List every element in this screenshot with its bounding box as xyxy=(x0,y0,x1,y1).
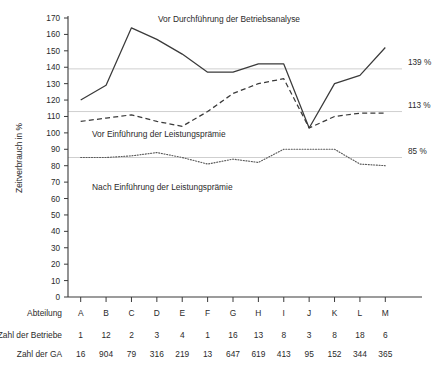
y-tick-label-90: 90 xyxy=(51,145,61,154)
y-tick-label-60: 60 xyxy=(51,195,61,204)
table-cell-r1-c9: 3 xyxy=(307,330,312,340)
table-cell-r2-c1: 904 xyxy=(99,349,113,359)
y-tick-label-0: 0 xyxy=(55,293,60,302)
table-cell-r2-c10: 152 xyxy=(328,349,342,359)
table-cell-r0-c11: L xyxy=(358,308,363,318)
table-cell-r0-c6: G xyxy=(230,308,237,318)
table-cell-r1-c7: 13 xyxy=(254,330,264,340)
y-tick-label-20: 20 xyxy=(51,260,61,269)
y-tick-label-170: 170 xyxy=(46,14,60,23)
table-cell-r1-c3: 3 xyxy=(155,330,160,340)
reference-label-113: 113 % xyxy=(408,101,431,110)
table-cell-r2-c8: 413 xyxy=(277,349,291,359)
table-cell-r2-c7: 619 xyxy=(251,349,265,359)
table-cell-r2-c0: 16 xyxy=(76,349,86,359)
table-cell-r2-c12: 365 xyxy=(378,349,392,359)
y-tick-label-150: 150 xyxy=(46,47,60,56)
table-row-header-2: Zahl der GA xyxy=(17,349,63,359)
table-cell-r0-c2: C xyxy=(128,308,134,318)
y-tick-label-100: 100 xyxy=(46,129,60,138)
table-cell-r1-c1: 12 xyxy=(101,330,111,340)
line-chart-canvas: 139 %113 %85 %01020304050607080901001101… xyxy=(0,0,438,366)
table-row-header-0: Abteilung xyxy=(27,308,62,318)
y-tick-label-140: 140 xyxy=(46,63,60,72)
series-line-solid xyxy=(81,28,386,128)
table-cell-r0-c12: M xyxy=(382,308,389,318)
table-cell-r2-c6: 647 xyxy=(226,349,240,359)
y-tick-label-10: 10 xyxy=(51,277,61,286)
table-cell-r2-c4: 219 xyxy=(175,349,189,359)
series-annotation-2: Vor Einführung der Leistungsprämie xyxy=(92,129,226,139)
y-tick-label-80: 80 xyxy=(51,162,61,171)
reference-label-139: 139 % xyxy=(408,58,431,67)
table-cell-r1-c2: 2 xyxy=(129,330,134,340)
y-tick-label-30: 30 xyxy=(51,244,61,253)
y-tick-label-160: 160 xyxy=(46,30,60,39)
y-tick-label-110: 110 xyxy=(47,112,60,121)
y-tick-label-40: 40 xyxy=(51,227,61,236)
series-line-dashed xyxy=(81,79,386,128)
series-annotation-1: Vor Durchführung der Betriebsanalyse xyxy=(158,14,300,24)
table-cell-r0-c0: A xyxy=(78,308,84,318)
table-cell-r0-c5: F xyxy=(205,308,210,318)
table-cell-r2-c5: 13 xyxy=(203,349,213,359)
table-cell-r2-c9: 95 xyxy=(304,349,314,359)
table-cell-r0-c9: J xyxy=(307,308,311,318)
table-cell-r1-c11: 18 xyxy=(355,330,365,340)
table-cell-r0-c8: I xyxy=(283,308,285,318)
y-axis-title: Zeitverbrauch in % xyxy=(14,123,24,193)
table-cell-r1-c4: 4 xyxy=(180,330,185,340)
table-cell-r1-c12: 6 xyxy=(383,330,388,340)
table-cell-r1-c0: 1 xyxy=(78,330,83,340)
y-tick-label-120: 120 xyxy=(46,96,60,105)
y-tick-label-70: 70 xyxy=(51,178,61,187)
table-row-header-1: Zahl der Betriebe xyxy=(0,330,62,340)
table-cell-r2-c11: 344 xyxy=(353,349,367,359)
table-cell-r0-c7: H xyxy=(255,308,261,318)
table-cell-r2-c3: 316 xyxy=(150,349,164,359)
reference-label-85: 85 % xyxy=(408,147,427,156)
table-cell-r0-c4: E xyxy=(179,308,185,318)
table-cell-r0-c1: B xyxy=(103,308,109,318)
table-cell-r1-c6: 16 xyxy=(228,330,238,340)
y-tick-label-130: 130 xyxy=(46,80,60,89)
y-tick-label-50: 50 xyxy=(51,211,61,220)
table-cell-r1-c10: 8 xyxy=(332,330,337,340)
series-annotation-3: Nach Einführung der Leistungsprämie xyxy=(92,182,233,192)
table-cell-r1-c8: 8 xyxy=(281,330,286,340)
chart-figure: 139 %113 %85 %01020304050607080901001101… xyxy=(0,0,438,366)
table-cell-r1-c5: 1 xyxy=(205,330,210,340)
table-cell-r0-c3: D xyxy=(154,308,160,318)
table-cell-r0-c10: K xyxy=(332,308,338,318)
table-cell-r2-c2: 79 xyxy=(127,349,137,359)
